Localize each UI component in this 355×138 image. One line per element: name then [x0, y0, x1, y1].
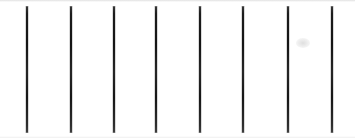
vertical-line-8-bottom-cap: [331, 132, 333, 133]
vertical-line-6-top-cap: [242, 6, 244, 7]
vertical-line-6-bottom-cap: [242, 132, 244, 133]
vertical-line-4: [155, 6, 157, 133]
scan-edge-top: [0, 0, 355, 2]
vertical-line-3: [113, 6, 115, 133]
vertical-line-8-top-cap: [331, 6, 333, 7]
vertical-line-5-top-cap: [199, 6, 201, 7]
vertical-line-4-bottom-cap: [155, 132, 157, 133]
vertical-line-1-bottom-cap: [26, 132, 28, 133]
scan-edge-bottom: [0, 136, 355, 138]
vertical-line-5-bottom-cap: [199, 132, 201, 133]
vertical-line-7-bottom-cap: [287, 132, 289, 133]
vertical-line-1-top-cap: [26, 6, 28, 7]
vertical-line-5: [199, 6, 201, 133]
vertical-line-3-top-cap: [113, 6, 115, 7]
vertical-line-1: [26, 6, 28, 133]
vertical-line-3-bottom-cap: [113, 132, 115, 133]
vertical-line-8: [331, 6, 333, 133]
vertical-line-7: [287, 6, 289, 133]
vertical-line-7-top-cap: [287, 6, 289, 7]
vertical-line-2: [70, 6, 72, 133]
vertical-line-6: [242, 6, 244, 133]
faint-gray-smudge: [296, 38, 310, 48]
vertical-lines-figure: [0, 0, 355, 138]
vertical-line-2-bottom-cap: [70, 132, 72, 133]
vertical-line-2-top-cap: [70, 6, 72, 7]
vertical-line-4-top-cap: [155, 6, 157, 7]
